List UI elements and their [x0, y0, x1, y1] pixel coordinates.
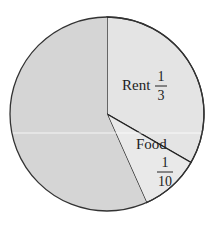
food-denominator: 10 [158, 174, 172, 189]
pie-chart: Rent 1 3 Food 1 10 [0, 0, 216, 226]
rent-denominator: 3 [158, 88, 165, 103]
food-label-name: Food [136, 136, 167, 152]
rent-label-name: Rent [122, 77, 151, 93]
rent-numerator: 1 [158, 69, 165, 84]
pie-slices [10, 17, 204, 211]
food-numerator: 1 [162, 155, 169, 170]
